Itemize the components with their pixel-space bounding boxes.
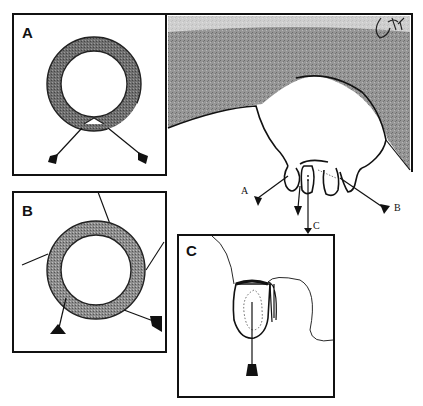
panel-a-label: A: [22, 24, 33, 41]
panel-c-label: C: [186, 242, 197, 259]
callout-a-label: A: [241, 185, 248, 196]
panel-c: [178, 235, 334, 397]
panel-b: [13, 192, 166, 352]
callout-b-label: B: [394, 202, 401, 213]
panel-b-label: B: [22, 202, 33, 219]
panel-a: [13, 14, 166, 175]
callout-c-label: C: [313, 220, 320, 231]
figure-canvas: [0, 0, 423, 406]
main-udder-view: [166, 14, 412, 234]
